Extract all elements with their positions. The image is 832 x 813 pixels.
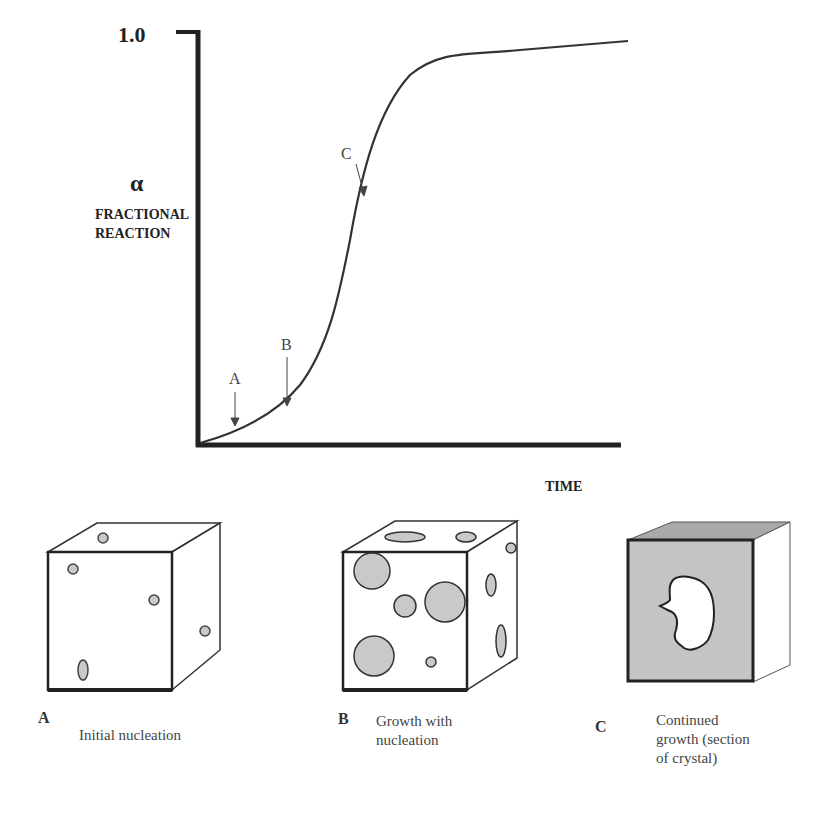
panel-a-letter: A (38, 709, 50, 727)
y-axis-label-line1: FRACTIONAL (95, 205, 189, 224)
y-axis-tick-1-0: 1.0 (118, 22, 146, 48)
cube-c-continued-growth (628, 522, 790, 682)
curve-marker-c: C (341, 145, 352, 163)
sigmoid-curve (200, 41, 628, 443)
panel-a-caption: Initial nucleation (79, 726, 181, 745)
cube-a-initial-nucleation (48, 523, 220, 690)
kinetics-diagram (0, 0, 832, 813)
y-axis-label-line2: REACTION (95, 224, 189, 243)
panel-a-caption-line: Initial nucleation (79, 726, 181, 745)
panel-c-caption-line: Continued (656, 711, 750, 730)
panel-b-letter: B (338, 710, 349, 728)
y-axis-label: FRACTIONAL REACTION (95, 205, 189, 243)
panel-b-caption: Growth with nucleation (376, 712, 452, 750)
cube-b-growth-with-nucleation (343, 521, 517, 690)
panel-c-caption: Continued growth (section of crystal) (656, 711, 750, 768)
curve-marker-b: B (281, 336, 292, 354)
panel-c-caption-line: growth (section (656, 730, 750, 749)
curve-marker-a: A (229, 370, 241, 388)
alpha-symbol: α (130, 170, 143, 197)
panel-c-caption-line: of crystal) (656, 749, 750, 768)
axes (176, 30, 621, 447)
x-axis-label: TIME (545, 479, 582, 495)
panel-c-letter: C (595, 718, 607, 736)
panel-b-caption-line: Growth with (376, 712, 452, 731)
panel-b-caption-line: nucleation (376, 731, 452, 750)
